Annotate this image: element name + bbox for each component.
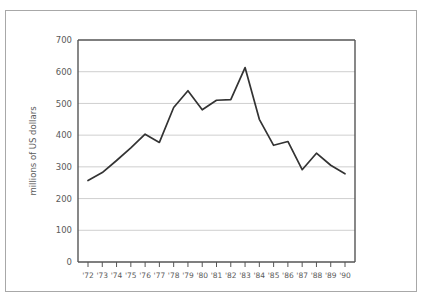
- line-chart: '72'73'74'75'76'77'78'79'80'81'82'83'84'…: [0, 0, 426, 303]
- chart-figure: '72'73'74'75'76'77'78'79'80'81'82'83'84'…: [0, 0, 426, 303]
- x-tick-label: '76: [139, 271, 151, 280]
- x-tick-label: '72: [82, 271, 94, 280]
- x-tick-label: '74: [111, 271, 123, 280]
- x-tick-label: '90: [339, 271, 351, 280]
- x-axis-ticks: [88, 262, 345, 267]
- x-tick-label: '73: [96, 271, 108, 280]
- x-tick-label: '82: [225, 271, 237, 280]
- x-tick-label: '81: [211, 271, 223, 280]
- y-tick-label: 700: [56, 35, 72, 45]
- x-tick-label: '77: [154, 271, 166, 280]
- x-tick-label: '75: [125, 271, 137, 280]
- y-axis-tick-labels: 0100200300400500600700: [56, 35, 72, 267]
- y-tick-label: 100: [56, 225, 72, 235]
- y-tick-label: 300: [56, 162, 72, 172]
- x-tick-label: '78: [168, 271, 180, 280]
- x-tick-label: '83: [239, 271, 251, 280]
- x-tick-label: '89: [325, 271, 337, 280]
- x-axis-tick-labels: '72'73'74'75'76'77'78'79'80'81'82'83'84'…: [82, 271, 351, 280]
- y-tick-label: 400: [56, 130, 72, 140]
- plot-background: [78, 40, 355, 262]
- x-tick-label: '79: [182, 271, 194, 280]
- x-tick-label: '86: [282, 271, 294, 280]
- y-axis-title: millions of US dollars: [28, 106, 38, 196]
- x-tick-label: '84: [254, 271, 266, 280]
- y-tick-label: 0: [67, 257, 72, 267]
- y-tick-label: 200: [56, 194, 72, 204]
- x-tick-label: '88: [311, 271, 323, 280]
- x-tick-label: '85: [268, 271, 280, 280]
- x-tick-label: '87: [296, 271, 308, 280]
- y-tick-label: 500: [56, 99, 72, 109]
- x-tick-label: '80: [196, 271, 208, 280]
- plot-area-wrapper: '72'73'74'75'76'77'78'79'80'81'82'83'84'…: [0, 0, 426, 303]
- y-tick-label: 600: [56, 67, 72, 77]
